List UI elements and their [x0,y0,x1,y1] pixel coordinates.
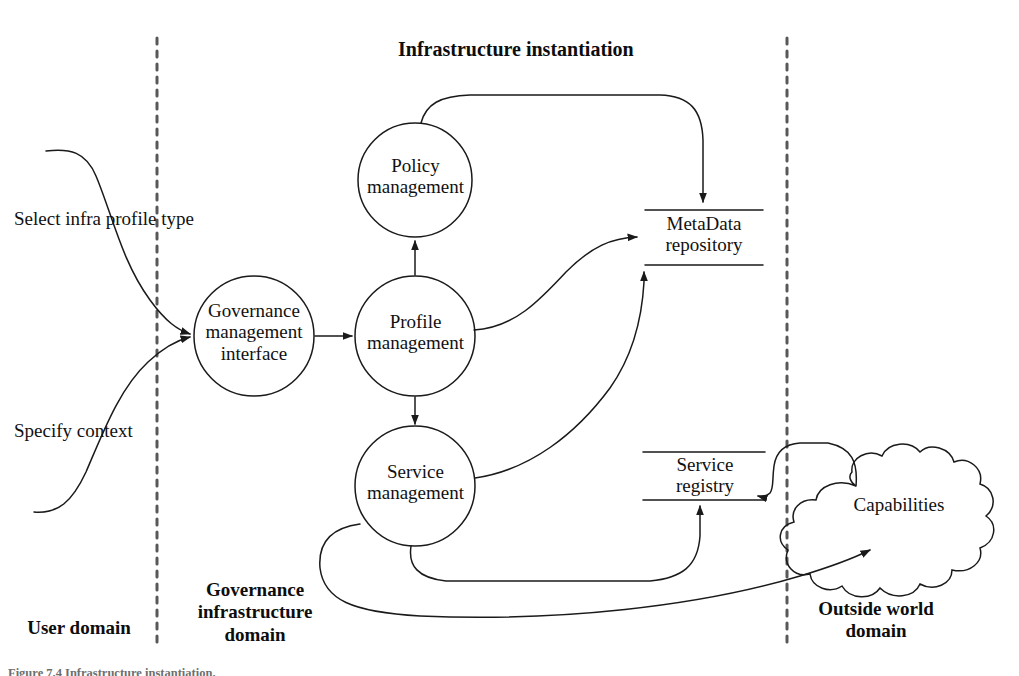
dataflow-diagram [0,0,1019,676]
figure-title: Infrastructure instantiation [398,38,634,61]
link-service-to-metadata [475,272,644,478]
figure-canvas: Infrastructure instantiation Select infr… [0,0,1019,676]
flow-select-infra-profile-type [46,150,190,334]
link-capabilities-to-registry [758,443,856,497]
link-profile-to-metadata [474,237,637,330]
domain-label-outside-world-domain: Outside world domain [796,598,956,643]
node-profile-management [355,276,475,396]
node-governance-management-interface [194,276,314,396]
domain-label-user-domain: User domain [8,617,150,639]
figure-caption: Figure 7.4 Infrastructure instantiation. [8,666,428,676]
link-service-to-registry [410,506,700,581]
flow-label-select-infra-profile-type: Select infra profile type [14,208,194,230]
node-capabilities-cloud [780,444,993,597]
node-service-management [355,426,475,546]
flow-label-specify-context: Specify context [14,420,133,442]
node-policy-management [358,123,472,237]
domain-label-governance-infrastructure-domain: Governance infrastructure domain [175,579,335,646]
